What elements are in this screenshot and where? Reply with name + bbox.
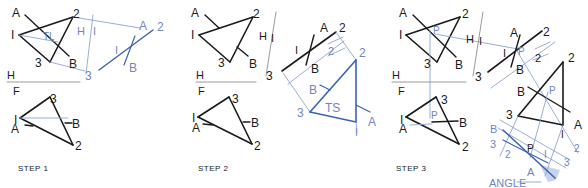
point-label: F: [398, 85, 405, 97]
point-label: B: [311, 62, 319, 76]
point-label: I: [295, 44, 298, 56]
point-label: 3: [218, 56, 225, 70]
step-3-label: STEP 3: [396, 164, 426, 173]
point-label: 2: [328, 45, 334, 57]
point-label: 3: [50, 92, 57, 106]
point-label: TL: [43, 31, 55, 42]
point-label: B: [459, 116, 467, 130]
point-label: 2: [75, 139, 82, 153]
drawing-line: [266, 12, 276, 76]
drawing-line: [336, 32, 356, 60]
point-label: B: [129, 61, 137, 75]
point-label: F: [13, 85, 20, 97]
point-label: 3: [475, 70, 482, 84]
point-label: 3: [506, 108, 513, 122]
point-label: A: [527, 166, 535, 178]
point-label: B: [516, 63, 524, 77]
drawing-line: [199, 35, 230, 62]
point-label: A: [574, 118, 582, 132]
drawing-line: [198, 117, 252, 144]
point-label: 3: [85, 69, 92, 83]
point-label: B: [249, 57, 257, 71]
point-label: I: [271, 32, 274, 44]
point-label: I: [355, 127, 358, 138]
point-label: A: [191, 6, 199, 20]
point-label: H: [466, 33, 474, 45]
point-label: A: [192, 121, 200, 135]
point-label: 2: [568, 51, 575, 65]
point-label: A: [320, 21, 328, 35]
drawing-line: [20, 97, 50, 118]
point-label: 2: [535, 52, 541, 64]
point-label: 2: [505, 149, 511, 160]
point-label: TS: [325, 101, 340, 115]
point-label: 2: [359, 46, 366, 60]
point-label: P: [549, 85, 556, 96]
point-label: P: [433, 25, 440, 36]
drawing-line: [410, 124, 432, 125]
point-label: A: [368, 115, 376, 129]
drawing-line: [432, 121, 458, 122]
step-1-label: STEP 1: [18, 164, 48, 173]
point-label: H: [77, 25, 85, 37]
point-label: A: [139, 19, 147, 33]
point-label: B: [490, 123, 497, 135]
drawing-line: [86, 15, 93, 74]
drawing-line: [306, 35, 314, 65]
point-label: B: [455, 58, 463, 72]
point-label: 2: [543, 25, 550, 39]
point-label: B: [309, 83, 317, 97]
point-label: P: [527, 143, 534, 154]
point-label: A: [510, 26, 518, 40]
point-label: H: [259, 30, 267, 42]
point-label: 2: [339, 21, 346, 35]
point-label: A: [399, 122, 407, 136]
point-label: 3: [266, 69, 273, 83]
point-label: ANGLE: [489, 177, 526, 188]
point-label: P: [518, 46, 525, 57]
point-label: 2: [462, 140, 469, 154]
point-label: 2: [73, 7, 80, 21]
point-label: B: [72, 117, 80, 131]
point-label: A: [12, 6, 20, 20]
drawing-line: [50, 62, 85, 71]
point-label: I: [11, 28, 14, 42]
point-label: H: [392, 69, 400, 81]
point-label: B: [251, 116, 259, 130]
point-label: 3: [35, 56, 42, 70]
point-label: B: [517, 85, 525, 99]
point-label: A: [11, 122, 19, 136]
point-label: P: [431, 110, 438, 121]
point-label: I: [115, 44, 118, 56]
point-label: 3: [441, 93, 448, 107]
point-label: B: [69, 57, 77, 71]
line-layer: [7, 12, 578, 182]
point-label: 3: [424, 57, 431, 71]
point-label: I: [93, 25, 96, 37]
point-label: H: [7, 69, 15, 81]
drawing-line: [198, 97, 229, 117]
drawing-line: [205, 15, 219, 28]
drawing-line: [406, 35, 437, 62]
drawing-line: [356, 105, 370, 112]
point-label: 3: [232, 92, 239, 106]
point-label: I: [479, 35, 482, 47]
point-label: I: [544, 149, 547, 160]
drawing-line: [99, 30, 153, 70]
point-label: I: [191, 28, 194, 42]
point-label: 2: [574, 143, 580, 154]
descriptive-geometry-drawing: A2ITL3BHI3A2IBHF3IAB2A2I3BHI3A2IB22BTS3A…: [0, 0, 588, 188]
point-label: 2: [462, 7, 469, 21]
drawing-line: [320, 85, 330, 90]
step-2-label: STEP 2: [198, 164, 228, 173]
point-label: H: [196, 69, 204, 81]
drawing-line: [25, 125, 33, 126]
drawing-line: [20, 118, 73, 145]
point-label: 2: [253, 7, 260, 21]
point-label: I: [561, 129, 564, 140]
label-layer: A2ITL3BHI3A2IBHF3IAB2A2I3BHI3A2IB22BTS3A…: [7, 6, 582, 188]
drawing-line: [237, 47, 248, 56]
point-label: 3: [490, 138, 496, 150]
point-label: 2: [157, 20, 164, 34]
point-label: A: [399, 6, 407, 20]
